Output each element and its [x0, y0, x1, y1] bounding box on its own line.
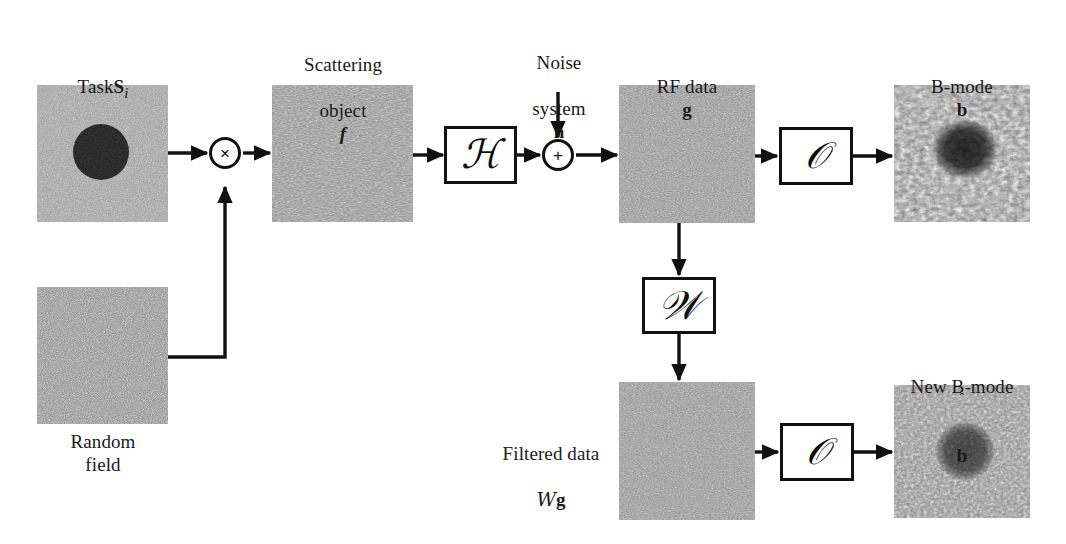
noise-system-label: Noise system n: [496, 28, 622, 143]
task-label: TaskSi: [40, 52, 166, 105]
random-field-label: Random field: [38, 430, 168, 476]
task-label-subscript: i: [124, 85, 128, 101]
noise-label-line1: Noise: [537, 52, 582, 73]
filtered-data-block: [619, 382, 755, 520]
rf-data-label-symbol: g: [682, 99, 692, 120]
edge-random-field-to-multiply: [168, 187, 225, 357]
diagram-canvas: ℋ 𝒪 𝒲 𝒪 × + TaskSi Random field Scatteri…: [0, 0, 1066, 544]
noise-label-symbol: n: [554, 121, 565, 142]
task-label-symbol: S: [114, 76, 125, 97]
rf-data-label: RF data g: [620, 52, 754, 121]
add-junction[interactable]: +: [542, 139, 574, 171]
multiply-junction[interactable]: ×: [209, 137, 241, 169]
envelope-operator-glyph: 𝒪: [806, 433, 829, 470]
wiener-filter-box[interactable]: 𝒲: [642, 277, 716, 334]
filtered-data-label-line1: Filtered data: [503, 443, 600, 464]
envelope-operator-glyph: 𝒪: [805, 137, 828, 174]
b-mode-label: B-mode b: [895, 52, 1029, 121]
filtered-data-label: Filtered data Wg: [484, 419, 618, 511]
add-symbol: +: [553, 147, 563, 164]
wiener-filter-glyph: 𝒲: [658, 285, 700, 325]
filtered-data-label-symbol: g: [556, 489, 566, 510]
envelope-operator-box-top[interactable]: 𝒪: [779, 127, 853, 185]
envelope-operator-box-bottom[interactable]: 𝒪: [780, 423, 854, 481]
scattering-label-line2: object: [319, 100, 366, 121]
task-image-block: [37, 85, 168, 222]
task-label-text: Task: [78, 76, 114, 97]
scattering-object-label: Scattering object f: [275, 30, 411, 145]
b-mode-label-symbol: b: [957, 99, 968, 120]
noise-label-line2: system: [532, 98, 585, 119]
random-field-block: [37, 287, 168, 424]
rf-data-label-text: RF data: [657, 76, 717, 97]
b-mode-label-text: B-mode: [931, 76, 993, 97]
scattering-label-line1: Scattering: [304, 54, 382, 75]
filtered-data-script-symbol: W: [536, 488, 556, 510]
new-b-mode-label-symbol: ̂ b: [957, 398, 968, 467]
scattering-label-symbol: f: [340, 123, 346, 144]
system-operator-glyph: ℋ: [461, 134, 501, 174]
multiply-symbol: ×: [220, 145, 230, 162]
new-b-mode-label: New B-mode ̂ b: [884, 352, 1040, 467]
